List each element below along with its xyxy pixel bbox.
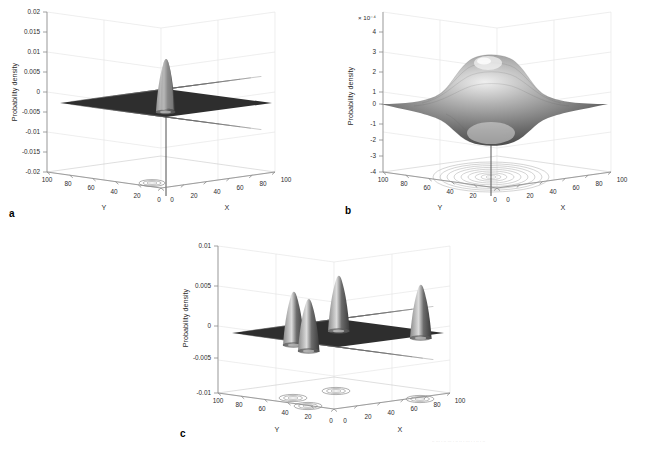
panel-c-ztick-2: 0 [207,322,211,329]
panel-a-z-ticks [43,12,47,172]
panel-b-ytick-2: 60 [423,184,431,191]
panel-a-ztick-3: 0.005 [24,68,40,75]
panel-a-x-axis-label: X [225,203,230,212]
panel-c-peak-2 [298,299,320,354]
panel-c-xtick-2: 40 [387,409,395,416]
panel-c-ztick-3: -0.005 [193,354,212,361]
panel-c-ytick-0: 100 [213,397,224,404]
panel-b-xtick-4: 80 [595,180,603,187]
panel-a-ztick-1: 0.015 [24,28,40,35]
panel-b-plot: × 10⁻⁴ 4 3 2 1 0 -1 -2 -3 -4 Probability… [336,0,672,230]
panel-b-ztick-1: 3 [372,48,376,55]
panel-a-ztick-8: -0.02 [25,168,40,175]
panel-c-contour-2 [294,402,322,409]
panel-b-ztick-3: 1 [372,88,376,95]
panel-b-ytick-1: 80 [400,180,408,187]
panel-c-xtick-1: 20 [364,413,372,420]
panel-b-xtick-0: 0 [506,196,510,203]
panel-c-ytick-4: 20 [304,413,312,420]
panel-c-contour-3 [322,387,350,394]
panel-a-ztick-0: 0.02 [28,8,41,15]
panel-b-y-axis-label: Y [438,203,443,212]
panel-b-ztick-0: 4 [372,28,376,35]
panel-b-xtick-5: 100 [617,176,628,183]
panel-a-xtick-5: 100 [281,176,292,183]
panel-c-z-ticks [214,246,218,393]
panel-b-z-ticks [379,32,383,172]
panel-b-xtick-2: 40 [549,188,557,195]
panel-c-peak-3 [328,276,350,334]
panel-a-ytick-3: 40 [110,188,118,195]
panel-c-z-axis-label: Probability density [181,288,190,347]
panel-a-xtick-4: 80 [259,180,267,187]
panel-c-ztick-1: 0.005 [195,282,211,289]
panel-c-peak-4 [410,285,432,341]
panel-b-ztick-7: -3 [370,152,376,159]
panel-c-contour-1 [279,394,307,401]
panel-c-ytick-1: 80 [235,401,243,408]
panel-c-xtick-3: 60 [410,405,418,412]
panel-b-z-axis-label: Probability density [346,66,355,125]
panel-a-ztick-4: 0 [36,88,40,95]
panel-b-ztick-6: -2 [370,136,376,143]
panel-a-ztick-7: -0.015 [22,148,41,155]
panel-a-xtick-1: 20 [190,192,198,199]
panel-b-surface [380,55,608,146]
panel-c: 0.01 0.005 0 -0.005 -0.01 Probability de… [150,228,522,453]
panel-a-ytick-5: 0 [157,196,161,203]
panel-a-xtick-3: 60 [236,184,244,191]
footer-artifact-text: ·· ··· · ·· ··· · ·· ·· · ··· · · ·· · ·… [432,440,670,450]
panel-a-z-axis-label: Probability density [10,62,19,121]
panel-b-ytick-5: 0 [493,196,497,203]
panel-a-ytick-4: 20 [133,192,141,199]
panel-c-xtick-5: 100 [455,397,466,404]
panel-a: 0.02 0.015 0.01 0.005 0 -0.005 -0.01 -0.… [0,0,336,230]
panel-b-x-axis-label: X [561,203,566,212]
panel-c-ztick-4: -0.01 [196,389,211,396]
panel-c-contour-4 [406,395,434,402]
panel-a-xtick-2: 40 [213,188,221,195]
panel-a-plot: 0.02 0.015 0.01 0.005 0 -0.005 -0.01 -0.… [0,0,336,230]
panel-b-letter: b [345,205,351,216]
panel-b-ztick-5: -1 [370,120,376,127]
panel-a-y-axis-label: Y [102,203,107,212]
panel-c-xtick-0: 0 [343,417,347,424]
panel-b-ztick-4: 0 [372,100,376,107]
panel-b-ytick-4: 20 [469,192,477,199]
panel-c-plot: 0.01 0.005 0 -0.005 -0.01 Probability de… [150,228,522,453]
panel-c-ytick-2: 60 [258,405,266,412]
panel-a-xtick-0: 0 [170,196,174,203]
panel-b-ztick-8: -4 [370,168,376,175]
panel-b-ytick-3: 40 [446,188,454,195]
panel-c-ztick-0: 0.01 [199,242,212,249]
panel-c-letter: c [180,428,186,439]
panel-a-ytick-1: 80 [64,180,72,187]
panel-b-ytick-0: 100 [378,176,389,183]
panel-a-ytick-2: 60 [87,184,95,191]
panel-c-x-axis-label: X [398,425,403,434]
panel-b-ztick-2: 2 [372,68,376,75]
panel-a-ztick-6: -0.01 [25,128,40,135]
panel-b-exponent: × 10⁻⁴ [358,14,376,21]
panel-b-xtick-1: 20 [526,192,534,199]
panel-b: × 10⁻⁴ 4 3 2 1 0 -1 -2 -3 -4 Probability… [336,0,672,230]
panel-c-ytick-3: 40 [281,409,289,416]
panel-c-xtick-4: 80 [433,401,441,408]
panel-a-ztick-2: 0.01 [28,48,41,55]
panel-a-letter: a [9,208,15,219]
panel-a-ytick-0: 100 [42,176,53,183]
panel-c-ytick-5: 0 [329,417,333,424]
panel-a-ztick-5: -0.005 [22,108,41,115]
panel-c-y-axis-label: Y [275,425,280,434]
panel-a-peak-1 [156,59,176,115]
panel-b-xtick-3: 60 [572,184,580,191]
